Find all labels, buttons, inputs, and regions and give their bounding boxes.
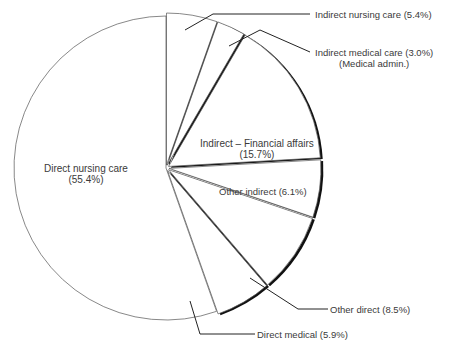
label-financial-affairs: Indirect – Financial affairs (15.7%) — [200, 138, 314, 160]
label-indirect-medical-sub: (Medical admin.) — [315, 58, 433, 69]
label-financial-value: (15.7%) — [200, 149, 314, 160]
label-other-indirect: Other indirect (6.1%) — [219, 186, 307, 197]
label-direct-medical: Direct medical (5.9%) — [257, 329, 348, 340]
label-other-direct: Other direct (8.5%) — [330, 304, 410, 315]
label-indirect-nursing-care: Indirect nursing care (5.4%) — [315, 9, 432, 20]
label-indirect-medical-care: Indirect medical care (3.0%) (Medical ad… — [315, 47, 433, 69]
label-direct-nursing-value: (55.4%) — [44, 174, 128, 185]
label-direct-nursing-text: Direct nursing care — [44, 163, 128, 174]
label-financial-text: Indirect – Financial affairs — [200, 138, 314, 149]
label-direct-nursing-care: Direct nursing care (55.4%) — [44, 163, 128, 185]
label-indirect-medical-text: Indirect medical care (3.0%) — [315, 47, 433, 58]
